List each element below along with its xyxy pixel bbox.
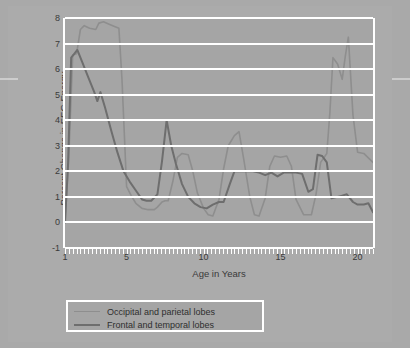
legend-swatch-occipital-parietal <box>74 311 100 312</box>
gridline <box>65 145 373 147</box>
legend-label-occipital-parietal: Occipital and parietal lobes <box>107 307 215 317</box>
y-axis-tick-labels: 876543210-1 <box>40 18 60 248</box>
legend-item: Occipital and parietal lobes <box>74 305 256 318</box>
gridline <box>65 196 373 198</box>
series-line <box>65 22 373 223</box>
gridline <box>65 43 373 45</box>
gridline <box>65 170 373 172</box>
x-axis-tick-label: 5 <box>124 252 129 262</box>
scan-artifact-right <box>392 78 410 80</box>
chart-legend: Occipital and parietal lobes Frontal and… <box>66 300 264 332</box>
y-axis-tick-label: 8 <box>55 13 60 23</box>
y-axis-tick-label: 7 <box>55 39 60 49</box>
x-axis-tick-label: 15 <box>276 252 286 262</box>
figure-container: Percent Change in EEG Energy 876543210-1… <box>0 0 410 348</box>
y-axis-tick-label: 0 <box>55 217 60 227</box>
gridline <box>65 68 373 70</box>
plot-frame <box>63 18 375 248</box>
gridline <box>65 119 373 121</box>
y-axis-tick-label: 1 <box>55 192 60 202</box>
scan-artifact-left <box>0 78 18 80</box>
legend-item: Frontal and temporal lobes <box>74 318 256 331</box>
legend-swatch-frontal-temporal <box>74 324 100 326</box>
y-axis-tick-label: 3 <box>55 141 60 151</box>
y-axis-tick-label: 2 <box>55 166 60 176</box>
y-axis-tick-label: 6 <box>55 64 60 74</box>
x-axis-tick-label: 10 <box>199 252 209 262</box>
x-axis-tick-label: 1 <box>62 252 67 262</box>
y-axis-tick-label: 5 <box>55 90 60 100</box>
gridline <box>65 221 373 223</box>
x-axis-title: Age in Years <box>63 268 375 279</box>
x-axis-tick-labels: 15101520 <box>63 252 375 266</box>
legend-label-frontal-temporal: Frontal and temporal lobes <box>107 320 214 330</box>
series-lines-svg <box>65 18 373 248</box>
gridline <box>65 94 373 96</box>
gridline <box>65 17 373 19</box>
x-axis-tick-label: 20 <box>353 252 363 262</box>
plot-area <box>65 18 373 248</box>
y-axis-tick-label: 4 <box>55 115 60 125</box>
y-axis-tick-label: -1 <box>52 243 60 253</box>
